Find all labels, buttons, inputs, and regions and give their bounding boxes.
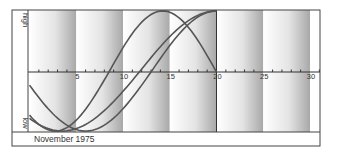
- x-tick-label: 30: [307, 72, 315, 81]
- x-tick-label: 15: [167, 72, 175, 81]
- y-label-high: high: [21, 13, 30, 27]
- month-caption: November 1975: [34, 134, 94, 144]
- shaded-bands: [30, 10, 321, 132]
- x-tick-label: 5: [75, 72, 79, 81]
- x-tick-label: 20: [213, 72, 221, 81]
- biorhythm-chart: 51015202530 high low: [0, 0, 338, 154]
- x-tick-label: 10: [120, 72, 128, 81]
- y-label-low: low: [21, 117, 30, 129]
- x-tick-label: 25: [260, 72, 268, 81]
